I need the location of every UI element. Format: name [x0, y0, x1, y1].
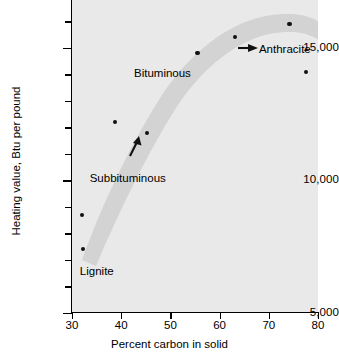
y-tick-minor — [65, 127, 72, 128]
y-tick-minor — [65, 260, 72, 261]
y-tick-label: 5,000 — [277, 307, 339, 319]
series-label-bituminous: Bituminous — [134, 68, 191, 80]
data-point — [287, 22, 291, 26]
data-point — [113, 120, 117, 124]
x-tick-label: 30 — [52, 320, 92, 332]
y-tick — [63, 48, 72, 49]
data-point — [145, 131, 149, 135]
y-tick — [63, 180, 72, 181]
arrow-up-subbituminous — [130, 136, 142, 156]
series-label-lignite: Lignite — [80, 266, 114, 278]
data-point — [80, 213, 84, 217]
x-tick-label: 50 — [150, 320, 190, 332]
y-tick-minor — [65, 154, 72, 155]
data-point — [195, 51, 199, 55]
y-tick-minor — [65, 21, 72, 22]
data-point — [233, 35, 237, 39]
y-tick-label: 15,000 — [277, 42, 339, 54]
data-point — [304, 70, 308, 74]
arrow-right-anthracite — [238, 44, 258, 52]
x-tick-label: 60 — [200, 320, 240, 332]
y-tick-minor — [65, 233, 72, 234]
coal-heating-value-chart: LigniteSubbituminousBituminousAnthracite… — [0, 0, 339, 358]
y-axis-title: Heating value, Btu per pound — [10, 71, 22, 251]
y-tick-minor — [65, 101, 72, 102]
y-tick-minor — [65, 74, 72, 75]
y-tick — [63, 313, 72, 314]
x-axis-title: Percent carbon in solid — [0, 338, 339, 350]
series-label-subbituminous: Subbituminous — [90, 173, 166, 185]
x-tick-label: 40 — [101, 320, 141, 332]
x-tick-label: 70 — [249, 320, 289, 332]
x-tick-label: 80 — [298, 320, 338, 332]
data-point — [81, 247, 85, 251]
y-tick-label: 10,000 — [277, 174, 339, 186]
y-tick-minor — [65, 286, 72, 287]
y-tick-minor — [65, 207, 72, 208]
